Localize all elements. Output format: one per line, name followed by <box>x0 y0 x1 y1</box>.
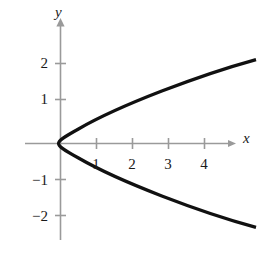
x-tick-label-3: 3 <box>164 157 172 172</box>
x-axis-label: x <box>243 131 250 146</box>
x-tick-label-1: 1 <box>92 157 100 172</box>
y-tick-label-minus-1: −1 <box>14 173 48 188</box>
x-tick-label-4: 4 <box>200 157 208 172</box>
x-tick-label-2: 2 <box>128 157 136 172</box>
y-tick-label-2: 2 <box>22 56 48 71</box>
parabola-figure: 1 2 3 4 2 1 −1 −2 x y <box>0 0 263 254</box>
y-tick-label-1: 1 <box>22 92 48 107</box>
y-axis-label: y <box>55 5 62 20</box>
y-tick-label-minus-2: −2 <box>14 209 48 224</box>
